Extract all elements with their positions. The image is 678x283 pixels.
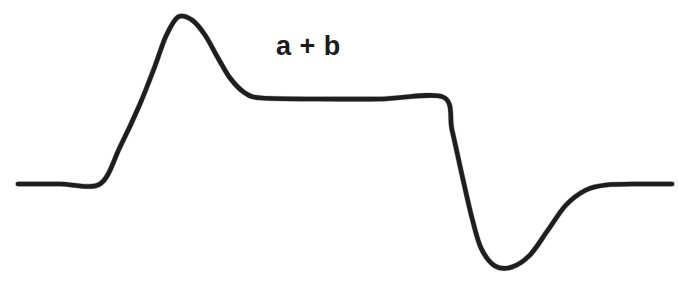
- figure-root: a + b: [0, 0, 678, 283]
- annotation-label-a-plus-b: a + b: [276, 33, 341, 60]
